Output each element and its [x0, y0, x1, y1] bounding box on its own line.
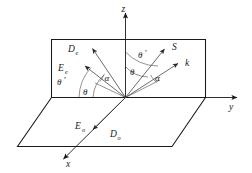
svg-text:θ: θ: [138, 50, 143, 60]
svg-text:o: o: [118, 134, 121, 141]
vector-Ee-label: E e: [57, 63, 68, 75]
vector-De-label: D e: [67, 44, 79, 56]
svg-text:e: e: [76, 49, 79, 56]
vector-Eo-label: E o: [74, 121, 85, 133]
angle-alpha-left-label: α: [105, 73, 110, 83]
svg-text:θ: θ: [57, 77, 62, 87]
angle-theta-right-label: θ: [130, 67, 135, 77]
axis-group: [64, 13, 238, 159]
vector-group: [85, 49, 178, 130]
svg-text:D: D: [67, 44, 75, 54]
vector-Do-line: [93, 98, 126, 130]
svg-text:D: D: [109, 129, 117, 139]
svg-text:E: E: [74, 121, 81, 131]
svg-text:′: ′: [64, 75, 67, 85]
angle-theta-left-label: θ: [83, 87, 88, 97]
angle-alpha-right-label: α: [155, 73, 160, 83]
angle-arc-group: [79, 52, 160, 98]
vector-S-label: S: [172, 42, 177, 52]
x-axis-label: x: [65, 159, 71, 169]
y-axis-label: y: [228, 102, 234, 112]
vector-k-label: k: [185, 58, 190, 68]
svg-text:e: e: [65, 68, 68, 75]
svg-text:′: ′: [145, 48, 148, 58]
label-group: z y x D e E e S k E o D o θ ′: [57, 4, 234, 170]
optics-diagram: z y x D e E e S k E o D o θ ′: [0, 0, 252, 173]
angle-theta-prime-left-label: θ ′: [57, 75, 67, 87]
angle-theta-prime-right-label: θ ′: [138, 48, 148, 60]
svg-text:E: E: [57, 63, 64, 73]
vector-Do-label: D o: [109, 129, 121, 141]
base-plane: [18, 98, 206, 147]
figure-container: z y x D e E e S k E o D o θ ′: [0, 0, 252, 173]
svg-text:o: o: [82, 126, 85, 133]
z-axis-label: z: [121, 4, 126, 14]
